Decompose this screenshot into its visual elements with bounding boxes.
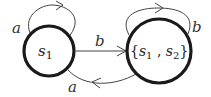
edge-label-s1-loop: a bbox=[12, 19, 21, 37]
edge-label-s1-to-s1s2: b bbox=[95, 32, 105, 50]
state-label-s1s2: {s1 , s2} bbox=[130, 43, 188, 61]
state-diagram: a b b a s1 {s1 , s2} bbox=[0, 0, 211, 97]
edge-label-s1s2-loop: b bbox=[192, 18, 202, 36]
edge-label-s1s2-to-s1: a bbox=[68, 78, 77, 96]
state-node-s1: s1 bbox=[24, 26, 74, 76]
state-node-s1s2: {s1 , s2} bbox=[127, 19, 191, 83]
edge-s1s2-to-s1 bbox=[68, 70, 136, 83]
